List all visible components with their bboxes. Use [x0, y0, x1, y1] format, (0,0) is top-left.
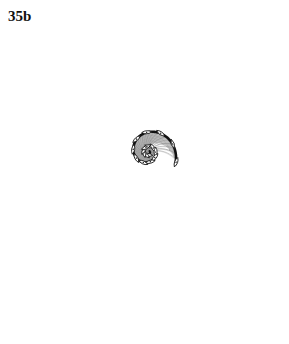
shell-diagram — [0, 0, 289, 344]
plate-label: 35b — [8, 9, 31, 24]
canvas-background — [0, 0, 289, 344]
figure-root: 35b — [0, 0, 289, 344]
